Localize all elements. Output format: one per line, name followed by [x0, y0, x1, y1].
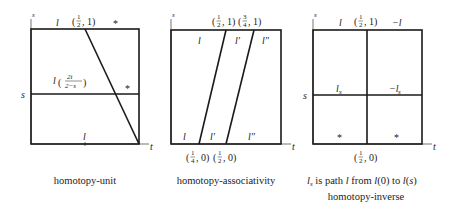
svg-text:(: (	[238, 16, 242, 28]
svg-text:2−s: 2−s	[65, 82, 76, 90]
svg-text:2: 2	[218, 157, 222, 165]
second-boundary	[226, 30, 254, 144]
left-s-label: s	[21, 89, 25, 100]
top-minus-l-label: −l	[392, 17, 402, 28]
t-axis-label: t	[433, 141, 436, 152]
svg-text:3: 3	[243, 13, 247, 21]
svg-text:(: (	[213, 152, 217, 164]
svg-text:(: (	[58, 77, 62, 89]
top-l-prime-label: l′	[235, 35, 241, 46]
svg-text:1: 1	[191, 149, 195, 157]
svg-text:4: 4	[243, 21, 247, 29]
bottom-l-label: l	[83, 131, 86, 142]
svg-text:, 0): , 0)	[364, 152, 377, 164]
top-points: ( 1 2 , 1) ( 3 4 , 1)	[212, 13, 261, 29]
middle-star: *	[125, 83, 130, 94]
svg-text:1: 1	[359, 13, 363, 21]
svg-text:l: l	[53, 75, 56, 86]
svg-text:2: 2	[217, 21, 221, 29]
svg-text:4: 4	[191, 157, 195, 165]
diagram-homotopy-inverse: s t l ( 1 2 , 1) −l l s −l s s * * ( 1 2	[303, 11, 436, 202]
bottom-point-half-zero: ( 1 2 , 0)	[354, 149, 377, 165]
svg-text:, 0): , 0)	[223, 152, 236, 164]
svg-text:, 1): , 1)	[248, 16, 261, 28]
top-l-label: l	[56, 17, 59, 28]
caption-path-description: ls is path l from l(0) to l(s)	[307, 175, 417, 188]
caption-homotopy-unit: homotopy-unit	[54, 175, 116, 186]
caption-homotopy-associativity: homotopy-associativity	[177, 175, 276, 186]
t-axis-label: t	[150, 141, 153, 152]
svg-text:2t: 2t	[67, 73, 74, 81]
svg-text:s: s	[398, 88, 401, 96]
svg-text:ls is path l from l(0) to l(s): ls is path l from l(0) to l(s)	[307, 175, 417, 188]
left-s-label: s	[303, 90, 307, 101]
mid-minus-l-s-label: −l s	[389, 83, 401, 96]
svg-text:1: 1	[77, 13, 81, 21]
svg-text:2: 2	[359, 157, 363, 165]
svg-text:): )	[83, 77, 86, 89]
svg-text:, 1): , 1)	[364, 16, 377, 28]
top-star: *	[113, 18, 118, 29]
bottom-right-star: *	[394, 132, 399, 143]
homotopy-diagrams: s t l ( 1 2 , 1) * l ( 2t 2−s ) * s l ho…	[0, 0, 458, 216]
svg-text:1: 1	[218, 149, 222, 157]
diagram-homotopy-unit: s t l ( 1 2 , 1) * l ( 2t 2−s ) * s l ho…	[21, 11, 153, 186]
middle-label-l-2t-over-2-minus-s: l ( 2t 2−s )	[53, 73, 86, 90]
reparam-diagonal	[85, 29, 139, 144]
s-axis-label: s	[172, 11, 175, 19]
svg-text:2: 2	[359, 21, 363, 29]
bottom-left-star: *	[337, 132, 342, 143]
svg-text:(: (	[354, 152, 358, 164]
svg-text:, 0): , 0)	[196, 152, 209, 164]
top-l-label: l	[339, 17, 342, 28]
svg-text:(: (	[186, 152, 190, 164]
svg-text:2: 2	[77, 21, 81, 29]
svg-text:1: 1	[217, 13, 221, 21]
diagram-homotopy-associativity: s t ( 1 2 , 1) ( 3 4 , 1) l l′ l″ l l′ l…	[171, 11, 295, 186]
svg-text:, 1): , 1)	[222, 16, 235, 28]
top-l-label: l	[198, 35, 201, 46]
t-axis-label: t	[292, 141, 295, 152]
svg-text:(: (	[212, 16, 216, 28]
s-axis-label: s	[314, 11, 317, 19]
s-axis-label: s	[32, 11, 35, 19]
first-boundary	[199, 30, 226, 144]
svg-text:s: s	[339, 88, 342, 96]
top-l-double-prime-label: l″	[262, 35, 270, 46]
svg-text:, 1): , 1)	[82, 16, 95, 28]
mid-l-s-label: l s	[336, 83, 342, 96]
unit-square	[171, 30, 281, 144]
top-point-half-one: ( 1 2 , 1)	[354, 13, 377, 29]
bottom-l-double-prime-label: l″	[248, 131, 256, 142]
top-point-half-one: ( 1 2 , 1)	[72, 13, 95, 29]
caption-homotopy-inverse: homotopy-inverse	[328, 191, 405, 202]
bottom-l-label: l	[183, 131, 186, 142]
svg-text:1: 1	[359, 149, 363, 157]
bottom-l-prime-label: l′	[210, 131, 216, 142]
bottom-points: ( 1 4 , 0) ( 1 2 , 0)	[186, 149, 236, 165]
svg-text:(: (	[354, 16, 358, 28]
svg-text:(: (	[72, 16, 76, 28]
